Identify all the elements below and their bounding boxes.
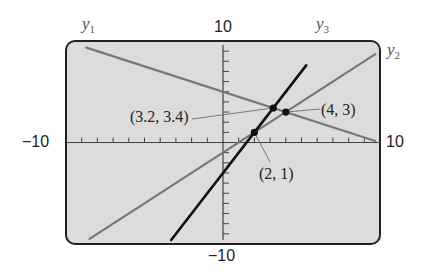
annotation-3.2-3.4: (3.2, 3.4)	[130, 108, 189, 126]
x-axis-max-label: 10	[386, 133, 404, 151]
graphing-calculator-figure: 10 −10 −10 10 y1 y2 y3 (3.2, 3.4) (4, 3)…	[0, 0, 428, 276]
series-label-y1: y1	[82, 14, 95, 35]
series-label-y2: y2	[387, 40, 400, 61]
annotation-4-3: (4, 3)	[321, 101, 356, 119]
annotation-2-1: (2, 1)	[259, 165, 294, 183]
intersection-point-0	[270, 104, 277, 111]
intersection-point-1	[282, 108, 289, 115]
intersection-point-2	[251, 129, 258, 136]
calculator-screen	[0, 0, 428, 276]
y-axis-max-label: 10	[214, 18, 232, 36]
x-axis-min-label: −10	[22, 133, 49, 151]
y-axis-min-label: −10	[208, 247, 235, 265]
series-label-y3: y3	[316, 14, 329, 35]
